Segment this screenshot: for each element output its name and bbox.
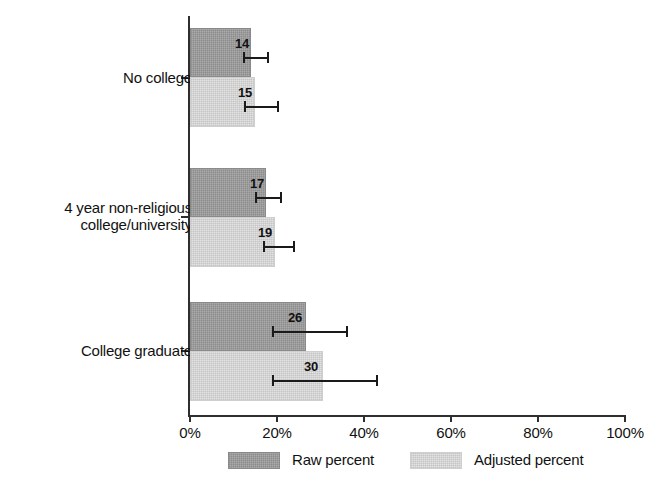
x-axis-tick [276,415,278,422]
legend-label-raw-percent: Raw percent [292,451,374,468]
x-axis-tick [450,415,452,422]
error-bar-cap-high [277,101,279,112]
error-bar-line [273,331,347,333]
category-label-line: 4 year non-religious [64,199,192,216]
error-bar-cap-low [263,241,265,252]
error-bar-cap-high [376,375,378,386]
x-axis-tick-label: 80% [508,424,568,441]
x-axis-tick [624,415,626,422]
x-axis-tick-label: 60% [421,424,481,441]
error-bar-line [273,380,377,382]
error-bar-cap-high [293,241,295,252]
error-bar-cap-high [346,326,348,337]
category-label-line: college/university [81,216,192,233]
bar-value-label: 26 [288,310,302,325]
error-bar-cap-low [255,192,257,203]
x-axis-tick-label: 40% [334,424,394,441]
error-bar-cap-high [267,52,269,63]
legend-swatch-adjusted-percent [410,452,462,469]
legend-swatch-raw-percent [228,452,280,469]
legend-label-adjusted-percent: Adjusted percent [474,451,583,468]
error-bar-cap-low [272,326,274,337]
x-axis-tick [189,415,191,422]
category-label-college-graduate: College graduate [0,342,192,359]
bar-value-label: 15 [238,85,252,100]
x-axis-tick-label: 20% [247,424,307,441]
category-label-no-college: No college [0,69,192,86]
error-bar-line [245,106,278,108]
category-label-line: No college [123,69,192,86]
chart-legend: Raw percent Adjusted percent [0,452,669,480]
error-bar-cap-low [244,101,246,112]
error-bar-line [256,197,281,199]
error-bar-line [244,57,268,59]
bar-chart: No college 4 year non-religious college/… [0,0,669,501]
x-axis-tick [537,415,539,422]
x-axis-tick [363,415,365,422]
x-axis-tick-label: 100% [595,424,655,441]
bar-value-label: 30 [304,359,318,374]
category-label-line: College graduate [81,342,192,359]
category-label-4-year-non-religious: 4 year non-religious college/university [0,199,192,233]
error-bar-line [264,246,294,248]
error-bar-cap-low [243,52,245,63]
bar-value-label: 19 [258,225,272,240]
x-axis-line [188,415,626,417]
error-bar-cap-low [272,375,274,386]
bar-value-label: 17 [250,176,264,191]
x-axis-tick-label: 0% [160,424,220,441]
error-bar-cap-high [280,192,282,203]
bar-value-label: 14 [235,36,249,51]
